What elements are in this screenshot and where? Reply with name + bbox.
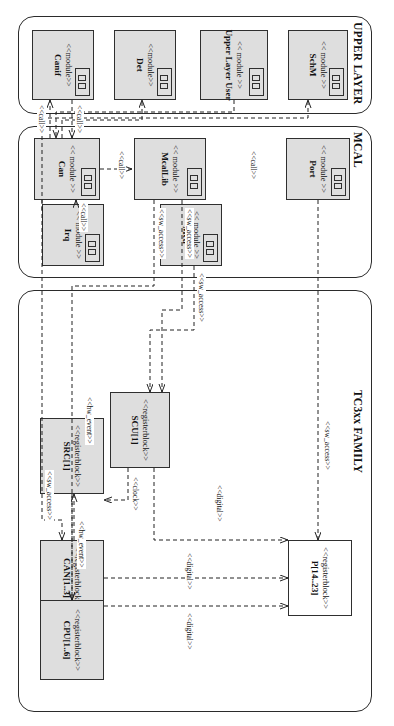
component-glyph-can	[81, 168, 96, 196]
component-glyph-schm	[329, 68, 344, 96]
edge-label-call-can-canif: <<call>>	[75, 104, 84, 134]
component-glyph-mcallib	[187, 168, 202, 196]
package-upper-layer-label: UPPER LAYER	[352, 22, 364, 105]
node-can-stereotype: << module >>	[68, 145, 78, 193]
node-det-name: Det	[135, 58, 146, 72]
package-mcal-label: MCAL	[352, 132, 364, 168]
node-upper-layer-user-stereotype: << module >>	[235, 41, 245, 89]
node-p1423[interactable]: <<registerblock>> P[14..23]	[288, 540, 352, 616]
edge-label-digital-3: <<digital>>	[185, 612, 194, 651]
node-mcallib-stereotype: << module >>	[171, 145, 181, 193]
edge-label-call-irq-can: <<call>>	[79, 202, 88, 232]
node-schm-name: SchM	[308, 54, 319, 77]
edge-label-call-port: <<call>>	[249, 150, 258, 180]
component-glyph-irq	[85, 234, 100, 262]
node-mcallib-name: McalLib	[160, 152, 171, 186]
node-src-name: SRC[1]	[62, 441, 73, 470]
node-irq[interactable]: << module >> Irq	[42, 204, 104, 266]
node-scu-stereotype: <<registerblock>>	[141, 399, 151, 461]
edge-label-clock: <<clock>>	[131, 476, 140, 512]
node-cpu-stereotype: <<registerblock>>	[73, 609, 83, 671]
edge-label-digital-1: <<digital>>	[215, 484, 224, 523]
component-glyph-upper-layer-user	[249, 68, 264, 96]
node-det-stereotype: <<module>>	[146, 43, 156, 87]
edge-label-swaccess-port: <<sw_access>>	[323, 420, 332, 471]
edge-label-hwevent-cpu: <<hw_event>>	[77, 520, 86, 569]
node-canif-name: Canif	[53, 54, 64, 76]
edge-label-swaccess-mcallib-1: <<sw_access>>	[185, 208, 194, 259]
component-glyph-det	[157, 68, 172, 96]
node-det[interactable]: <<module>> Det	[114, 30, 176, 100]
node-upper-layer-user[interactable]: << module >> Upper Layer User	[200, 30, 268, 100]
component-glyph-port	[331, 168, 346, 196]
component-glyph-mcu	[203, 234, 218, 262]
node-schm-stereotype: << module >>	[319, 41, 329, 89]
edge-label-hwevent-src: <<hw_event>>	[85, 396, 94, 445]
node-can-name: Can	[57, 161, 68, 177]
node-cpu-name: CPU[1..6]	[62, 621, 73, 660]
node-p1423-stereotype: <<registerblock>>	[321, 547, 331, 609]
node-can13-name: CAN[1..3]	[62, 558, 73, 598]
node-upper-layer-user-name: Upper Layer User	[224, 29, 235, 100]
edge-label-swaccess-mcallib-2: <<sw_access>>	[157, 208, 166, 259]
node-schm[interactable]: << module >> SchM	[288, 30, 348, 100]
node-p1423-name: P[14..23]	[310, 561, 321, 596]
node-scu[interactable]: <<registerblock>> SCU[1]	[110, 392, 170, 468]
edge-label-digital-2: <<digital>>	[185, 552, 194, 591]
node-port-stereotype: << module >>	[319, 145, 329, 193]
node-canif-box[interactable]: <<module>> Canif	[32, 30, 94, 100]
node-irq-name: Irq	[63, 229, 74, 242]
component-glyph-canif	[75, 68, 90, 96]
node-can[interactable]: << module >> Can	[34, 138, 100, 200]
node-cpu[interactable]: <<registerblock>> CPU[1..6]	[40, 600, 104, 680]
edge-label-call-can-mcallib: <<call>>	[117, 150, 126, 180]
edge-label-call-canif-can: <<call>>	[37, 104, 46, 134]
node-src-stereotype: <<registerblock>>	[73, 425, 83, 487]
node-port[interactable]: << module >> Port	[286, 138, 350, 200]
node-port-name: Port	[308, 160, 319, 177]
edge-label-swaccess-mcu: <<sw_access>>	[197, 272, 206, 323]
node-canif-stereotype: <<module>>	[64, 43, 74, 87]
node-scu-name: SCU[1]	[130, 415, 141, 444]
package-tc3xx-family-label: TC3xx FAMILY	[352, 390, 364, 473]
diagram-canvas: UPPER LAYER MCAL TC3xx FAMILY << module …	[0, 0, 394, 726]
node-mcallib[interactable]: << module >> McalLib	[134, 138, 206, 200]
edge-label-swaccess-can13: <<sw_access>>	[45, 470, 54, 521]
